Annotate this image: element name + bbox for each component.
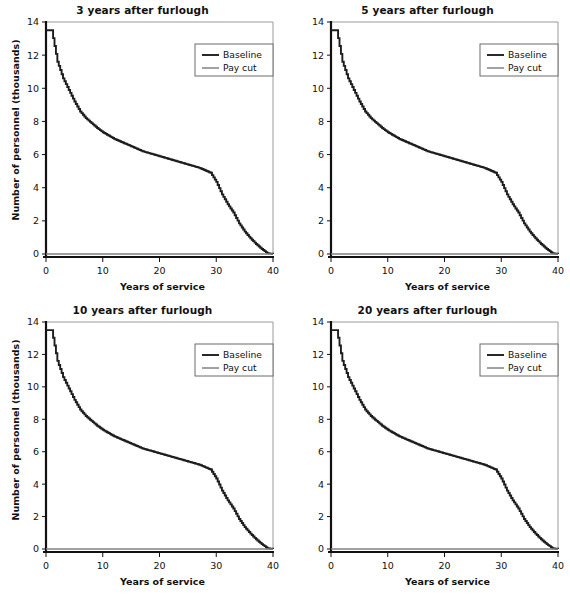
plot-area-20-years: 02468101214010203040BaselinePay cut	[285, 300, 570, 595]
panel-3-years: 3 years after furlough Number of personn…	[0, 0, 285, 300]
svg-text:30: 30	[495, 560, 507, 571]
svg-text:10: 10	[27, 83, 39, 94]
svg-text:6: 6	[318, 446, 324, 457]
svg-text:Pay cut: Pay cut	[223, 62, 257, 73]
svg-text:2: 2	[318, 511, 324, 522]
svg-text:20: 20	[153, 560, 165, 571]
svg-text:20: 20	[438, 560, 450, 571]
svg-text:12: 12	[312, 50, 324, 61]
svg-text:0: 0	[33, 248, 39, 259]
svg-text:12: 12	[27, 50, 39, 61]
svg-text:14: 14	[27, 16, 39, 27]
plot-area-5-years: 02468101214010203040BaselinePay cut	[285, 0, 570, 300]
svg-text:0: 0	[318, 248, 324, 259]
svg-text:10: 10	[312, 381, 324, 392]
svg-text:Baseline: Baseline	[223, 49, 262, 60]
svg-text:0: 0	[43, 265, 49, 276]
svg-text:10: 10	[382, 265, 394, 276]
svg-text:Pay cut: Pay cut	[508, 62, 542, 73]
svg-text:30: 30	[495, 265, 507, 276]
x-axis-title: Years of service	[46, 576, 279, 587]
svg-text:Baseline: Baseline	[508, 49, 547, 60]
svg-text:6: 6	[318, 149, 324, 160]
svg-text:4: 4	[318, 479, 324, 490]
svg-text:10: 10	[97, 560, 109, 571]
panel-20-years: 20 years after furlough 0246810121401020…	[285, 300, 570, 595]
svg-text:0: 0	[318, 543, 324, 554]
x-axis-title: Years of service	[331, 281, 564, 292]
svg-text:2: 2	[318, 215, 324, 226]
svg-text:12: 12	[312, 349, 324, 360]
svg-text:10: 10	[27, 381, 39, 392]
svg-text:40: 40	[267, 560, 279, 571]
svg-text:8: 8	[33, 116, 39, 127]
svg-text:20: 20	[153, 265, 165, 276]
svg-text:4: 4	[33, 479, 39, 490]
svg-text:Pay cut: Pay cut	[508, 362, 542, 373]
panel-10-years: 10 years after furlough Number of person…	[0, 300, 285, 595]
svg-text:0: 0	[328, 265, 334, 276]
svg-text:0: 0	[33, 543, 39, 554]
x-axis-title: Years of service	[331, 576, 564, 587]
svg-text:14: 14	[312, 16, 324, 27]
svg-text:14: 14	[27, 316, 39, 327]
svg-text:4: 4	[318, 182, 324, 193]
svg-text:40: 40	[552, 265, 564, 276]
svg-text:2: 2	[33, 215, 39, 226]
panel-5-years: 5 years after furlough 02468101214010203…	[285, 0, 570, 300]
figure-multi-panel: 3 years after furlough Number of personn…	[0, 0, 570, 595]
svg-text:20: 20	[438, 265, 450, 276]
svg-text:6: 6	[33, 149, 39, 160]
svg-text:12: 12	[27, 349, 39, 360]
svg-text:8: 8	[318, 116, 324, 127]
x-axis-title: Years of service	[46, 281, 279, 292]
svg-text:30: 30	[210, 265, 222, 276]
svg-text:Pay cut: Pay cut	[223, 362, 257, 373]
svg-text:40: 40	[552, 560, 564, 571]
svg-text:Baseline: Baseline	[508, 349, 547, 360]
svg-text:10: 10	[312, 83, 324, 94]
svg-text:8: 8	[33, 414, 39, 425]
svg-text:30: 30	[210, 560, 222, 571]
svg-text:40: 40	[267, 265, 279, 276]
plot-area-3-years: 02468101214010203040BaselinePay cut	[0, 0, 285, 300]
svg-text:10: 10	[97, 265, 109, 276]
plot-area-10-years: 02468101214010203040BaselinePay cut	[0, 300, 285, 595]
svg-text:8: 8	[318, 414, 324, 425]
svg-text:0: 0	[328, 560, 334, 571]
svg-text:4: 4	[33, 182, 39, 193]
svg-text:2: 2	[33, 511, 39, 522]
svg-text:Baseline: Baseline	[223, 349, 262, 360]
svg-text:0: 0	[43, 560, 49, 571]
svg-text:6: 6	[33, 446, 39, 457]
svg-text:10: 10	[382, 560, 394, 571]
svg-text:14: 14	[312, 316, 324, 327]
